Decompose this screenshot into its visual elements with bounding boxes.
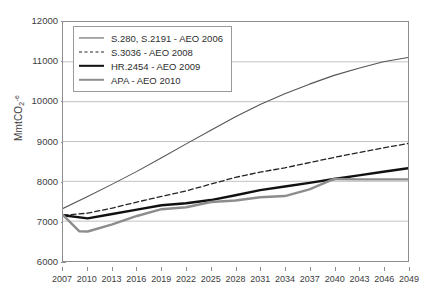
legend-item-label: S.3036 - AEO 2008	[111, 47, 193, 58]
x-tick-mark	[236, 267, 237, 271]
legend-item-1: S.280, S.2191 - AEO 2006	[79, 31, 223, 45]
legend-item-2: S.3036 - AEO 2008	[79, 45, 223, 59]
x-tick-mark	[285, 267, 286, 271]
series-line-3	[63, 168, 408, 218]
x-tick-mark	[136, 267, 137, 271]
x-tick-mark	[335, 267, 336, 271]
x-tick-mark	[62, 267, 63, 271]
x-tick-mark	[260, 267, 261, 271]
legend-item-3: HR.2454 - AEO 2009	[79, 59, 223, 73]
y-tick-mark	[61, 262, 66, 263]
legend-item-label: HR.2454 - AEO 2009	[111, 61, 200, 72]
legend-swatch-icon	[79, 47, 104, 57]
x-tick-mark	[211, 267, 212, 271]
x-tick-mark	[359, 267, 360, 271]
y-tick-label: 12000	[20, 16, 58, 25]
x-tick-mark	[161, 267, 162, 271]
legend: S.280, S.2191 - AEO 2006S.3036 - AEO 200…	[73, 26, 232, 92]
y-tick-label: 6000	[20, 257, 58, 266]
x-tick-label: 2049	[393, 274, 425, 284]
y-tick-label: 9000	[20, 137, 58, 146]
y-tick-label: 7000	[20, 217, 58, 226]
x-tick-mark	[186, 267, 187, 271]
legend-swatch-icon	[79, 61, 104, 71]
x-tick-mark	[310, 267, 311, 271]
legend-swatch-icon	[79, 75, 104, 85]
legend-item-label: APA - AEO 2010	[111, 75, 181, 86]
y-tick-label: 11000	[20, 56, 58, 65]
y-tick-label: 8000	[20, 177, 58, 186]
legend-item-4: APA - AEO 2010	[79, 73, 223, 87]
x-tick-mark	[384, 267, 385, 271]
series-line-4	[63, 179, 408, 232]
x-tick-mark	[112, 267, 113, 271]
x-axis-tick-labels: 2007201020132016201920222025202820312034…	[0, 267, 429, 283]
emissions-projection-chart: MmtCO2-e 6000700080009000100001100012000…	[0, 0, 429, 289]
legend-swatch-icon	[79, 33, 104, 43]
y-axis-title-superscript: -e	[13, 95, 20, 102]
x-tick-mark	[409, 267, 410, 271]
y-tick-label: 10000	[20, 96, 58, 105]
y-axis-tick-labels: 6000700080009000100001100012000	[20, 0, 58, 289]
legend-item-label: S.280, S.2191 - AEO 2006	[111, 33, 223, 44]
x-tick-mark	[87, 267, 88, 271]
